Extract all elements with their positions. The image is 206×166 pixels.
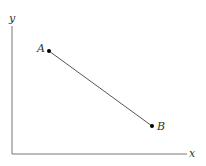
segment-ab	[49, 51, 152, 126]
line-segment-diagram: y x A B	[0, 0, 206, 166]
y-axis-label: y	[8, 12, 16, 25]
point-a	[47, 49, 51, 53]
point-b-label: B	[156, 120, 165, 133]
point-a-label: A	[36, 42, 45, 55]
point-b	[150, 124, 154, 128]
x-axis-label: x	[189, 147, 196, 160]
